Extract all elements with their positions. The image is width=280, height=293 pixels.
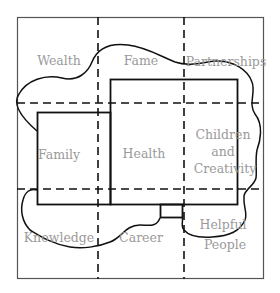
label-fame: Fame: [124, 53, 159, 68]
label-wealth: Wealth: [37, 53, 81, 68]
label-partnerships: Partnerships: [186, 54, 267, 69]
label-health: Health: [123, 146, 166, 161]
label-children-creativity: Children and Creativity: [194, 127, 257, 176]
label-knowledge: Knowledge: [24, 230, 94, 245]
bagua-diagram: Wealth Fame Partnerships Family Health C…: [0, 0, 280, 293]
label-career: Career: [119, 230, 163, 245]
label-family: Family: [38, 147, 81, 162]
health-room-outline: [111, 80, 238, 205]
entry-step-outline: [161, 205, 183, 218]
